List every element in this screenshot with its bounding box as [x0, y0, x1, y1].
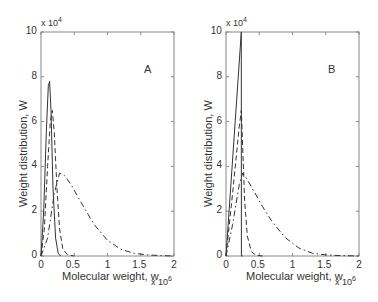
- x-tick-label: 0: [38, 259, 44, 270]
- panel-label-a: A: [144, 63, 151, 75]
- y-tick-label: 6: [31, 115, 37, 126]
- x-axis-label-a: Molecular weight, w: [62, 270, 159, 282]
- y-multiplier-b: x 104: [226, 16, 247, 28]
- x-tick-label: 2: [171, 259, 177, 270]
- x-tick-label: 1.5: [317, 259, 331, 270]
- chart-panel-a: x 104 A Weight distribution, W Molecular…: [0, 0, 189, 302]
- series-dash-dot: [41, 173, 174, 256]
- y-tick-label: 0: [31, 249, 37, 260]
- x-tick-label: 1: [105, 259, 111, 270]
- y-tick-label: 2: [31, 204, 37, 215]
- y-tick-label: 4: [216, 159, 222, 170]
- x-axis-label-b: Molecular weight, w: [246, 270, 343, 282]
- y-multiplier-a: x 104: [41, 16, 62, 28]
- y-tick-label: 10: [211, 25, 222, 36]
- y-tick-label: 8: [216, 70, 222, 81]
- x-tick-label: 0.5: [66, 259, 80, 270]
- panel-label-b: B: [328, 63, 335, 75]
- y-tick-label: 4: [31, 159, 37, 170]
- y-axis-label-a: Weight distribution, W: [17, 100, 29, 207]
- y-tick-label: 0: [216, 249, 222, 260]
- y-tick-label: 6: [216, 115, 222, 126]
- series-dashed: [226, 110, 263, 256]
- x-tick-label: 0.5: [251, 259, 265, 270]
- y-axis-label-b: Weight distribution, W: [202, 100, 214, 207]
- chart-panel-b: x 104 B Weight distribution, W Molecular…: [189, 0, 378, 302]
- x-tick-label: 2: [356, 259, 362, 270]
- axes-box: [41, 32, 174, 256]
- x-multiplier-b: x 106: [335, 275, 356, 287]
- y-tick-label: 8: [31, 70, 37, 81]
- y-tick-label: 10: [26, 25, 37, 36]
- x-tick-label: 0: [223, 259, 229, 270]
- series-solid: [226, 32, 243, 256]
- y-tick-label: 2: [216, 204, 222, 215]
- x-multiplier-a: x 106: [151, 275, 172, 287]
- x-tick-label: 1: [290, 259, 296, 270]
- x-tick-label: 1.5: [132, 259, 146, 270]
